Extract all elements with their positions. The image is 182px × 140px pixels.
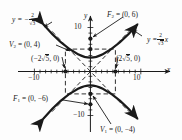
vertex-upper-label: V2 = (0, 4) <box>9 41 40 49</box>
vertex-lower-label: V1 = (0, −4) <box>100 126 135 134</box>
y-tick-label-pos10: 10 <box>74 23 81 30</box>
hyperbola-figure: y = −2√3 x y =2√3 x F2 = (0, 6) V2 = (0,… <box>0 0 182 140</box>
point-vertex-lower <box>88 92 92 96</box>
asymptote-negative-label: y = −2√3 x <box>12 13 40 26</box>
leader-focus-upper <box>93 17 123 37</box>
y-tick-label-neg10: −10 <box>73 111 85 118</box>
leader-asymptote-negative <box>44 22 52 27</box>
leader-corner-left <box>62 57 65 68</box>
x-axis <box>18 69 170 75</box>
asymptote-positive-label: y =2√3 x <box>147 33 168 46</box>
leader-asymptote-positive <box>133 30 142 36</box>
point-vertex-upper <box>88 47 92 51</box>
leader-focus-lower <box>63 100 88 104</box>
focus-upper-label: F2 = (0, 6) <box>107 11 138 19</box>
leader-vertex-lower <box>93 96 111 124</box>
fraction-2-over-sqrt3: 2√3 <box>29 13 36 26</box>
y-axis-label: y <box>84 12 87 19</box>
point-corner-right <box>113 69 117 73</box>
x-axis-label: x <box>167 66 170 73</box>
point-focus-upper <box>88 37 92 41</box>
corner-left-label: (−2√5, 0) <box>31 54 59 63</box>
x-tick-label-neg10: −10 <box>28 74 40 81</box>
point-focus-lower <box>88 102 92 106</box>
x-tick-label-pos10: 10 <box>133 74 140 81</box>
point-corner-left <box>63 69 67 73</box>
focus-lower-label: F1 = (0, −6) <box>13 95 48 103</box>
corner-right-label: (2√5, 0) <box>116 54 140 63</box>
